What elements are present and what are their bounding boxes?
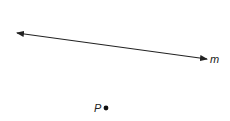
point-p-label: P — [94, 102, 102, 114]
point-p-dot — [104, 106, 109, 111]
diagram-canvas: m P — [0, 0, 230, 121]
line-m-label: m — [210, 53, 219, 65]
line-m — [17, 33, 207, 59]
